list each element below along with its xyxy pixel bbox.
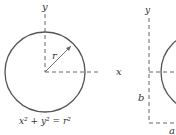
left-figure: y x r x² + y² = r²: [5, 1, 122, 126]
x-axis-label-left: x: [116, 66, 122, 77]
y-axis-label-right: y: [144, 5, 151, 15]
right-figure: y b a: [138, 5, 176, 135]
radius-line: [45, 46, 71, 72]
offset-b-label: b: [138, 92, 144, 103]
offset-a-label: a: [169, 125, 175, 135]
y-axis-label-left: y: [41, 1, 48, 12]
circle-equation: x² + y² = r²: [19, 116, 71, 126]
diagram-canvas: y x r x² + y² = r² y b a: [0, 0, 176, 135]
